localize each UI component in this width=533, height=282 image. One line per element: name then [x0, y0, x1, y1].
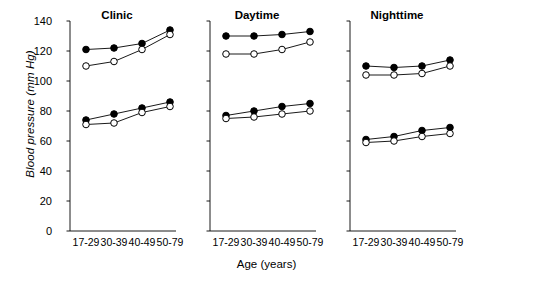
data-point-filled	[279, 103, 286, 110]
y-tick-label-20: 20	[40, 196, 52, 207]
x-tick-label-17-29: 17-29	[353, 236, 380, 248]
data-point-filled	[391, 64, 398, 71]
series-diastolic-men	[223, 100, 314, 119]
x-tick-label-30-39: 30-39	[241, 236, 268, 248]
data-point-open	[279, 46, 286, 53]
data-point-open	[391, 138, 398, 145]
data-point-open	[111, 58, 118, 65]
series-systolic-women	[83, 31, 174, 69]
data-point-open	[223, 51, 230, 58]
series-line	[226, 111, 310, 119]
data-point-open	[307, 39, 314, 46]
series-diastolic-men	[363, 124, 454, 143]
data-point-open	[251, 51, 258, 58]
data-point-open	[167, 31, 174, 38]
data-point-filled	[111, 45, 118, 52]
data-point-open	[419, 70, 426, 77]
y-tick-label-80: 80	[40, 106, 52, 117]
data-point-open	[111, 120, 118, 127]
data-point-open	[447, 63, 454, 70]
data-point-filled	[307, 28, 314, 35]
x-tick-label-30-39: 30-39	[101, 236, 128, 248]
series-line	[226, 32, 310, 37]
data-point-open	[139, 109, 146, 116]
panel-clinic: Clinic17-2930-3940-4950-79	[56, 0, 178, 282]
x-axis-tick-labels: 17-2930-3940-4950-79	[196, 236, 318, 252]
series-line	[366, 66, 450, 75]
x-tick-label-40-49: 40-49	[409, 236, 436, 248]
x-axis-tick-labels: 17-2930-3940-4950-79	[336, 236, 458, 252]
data-point-open	[363, 139, 370, 146]
x-tick-label-17-29: 17-29	[73, 236, 100, 248]
series-diastolic-women	[83, 103, 174, 128]
y-tick-label-0: 0	[46, 226, 52, 237]
series-line	[366, 60, 450, 68]
data-point-open	[391, 72, 398, 79]
panel-nighttime: Nighttime17-2930-3940-4950-79	[336, 0, 458, 282]
data-point-filled	[419, 63, 426, 70]
x-tick-label-50-79: 50-79	[157, 236, 184, 248]
axis-lines	[350, 21, 456, 231]
data-point-open	[223, 115, 230, 122]
series-line	[86, 107, 170, 125]
panel-title-clinic: Clinic	[56, 9, 178, 21]
x-tick-label-40-49: 40-49	[269, 236, 296, 248]
y-tick-label-60: 60	[40, 136, 52, 147]
y-tick-label-140: 140	[34, 16, 52, 27]
data-point-open	[83, 121, 90, 128]
x-tick-label-50-79: 50-79	[437, 236, 464, 248]
data-point-filled	[363, 63, 370, 70]
x-tick-label-17-29: 17-29	[213, 236, 240, 248]
data-point-filled	[307, 100, 314, 107]
panel-daytime: Daytime17-2930-3940-4950-79	[196, 0, 318, 282]
series-line	[366, 128, 450, 140]
data-point-open	[419, 133, 426, 140]
data-point-filled	[83, 46, 90, 53]
data-point-open	[307, 108, 314, 115]
plot-area-clinic	[56, 21, 178, 231]
series-line	[226, 42, 310, 54]
panel-title-nighttime: Nighttime	[336, 9, 458, 21]
y-tick-label-100: 100	[34, 76, 52, 87]
series-systolic-women	[223, 39, 314, 58]
data-point-filled	[111, 111, 118, 118]
series-systolic-women	[363, 63, 454, 79]
figure: Blood pressure (mm Hg) 02040608010012014…	[0, 0, 533, 282]
panel-title-daytime: Daytime	[196, 9, 318, 21]
y-tick-label-40: 40	[40, 166, 52, 177]
series-systolic-men	[223, 28, 314, 39]
x-axis-title: Age (years)	[0, 258, 533, 270]
series-line	[226, 104, 310, 116]
data-point-open	[139, 46, 146, 53]
data-point-open	[279, 111, 286, 118]
data-point-open	[251, 114, 258, 121]
x-tick-label-40-49: 40-49	[129, 236, 156, 248]
series-diastolic-women	[223, 108, 314, 122]
plot-area-daytime	[196, 21, 318, 231]
y-tick-label-120: 120	[34, 46, 52, 57]
data-point-filled	[223, 33, 230, 40]
x-tick-label-50-79: 50-79	[297, 236, 324, 248]
data-point-filled	[279, 31, 286, 38]
series-line	[86, 35, 170, 67]
data-point-open	[83, 63, 90, 70]
data-point-open	[447, 130, 454, 137]
data-point-open	[363, 72, 370, 79]
y-axis-tick-labels: 020406080100120140	[0, 0, 56, 282]
x-tick-label-30-39: 30-39	[381, 236, 408, 248]
series-diastolic-men	[83, 99, 174, 124]
plot-area-nighttime	[336, 21, 458, 231]
x-axis-tick-labels: 17-2930-3940-4950-79	[56, 236, 178, 252]
series-line	[86, 30, 170, 50]
data-point-open	[167, 103, 174, 110]
data-point-filled	[251, 33, 258, 40]
